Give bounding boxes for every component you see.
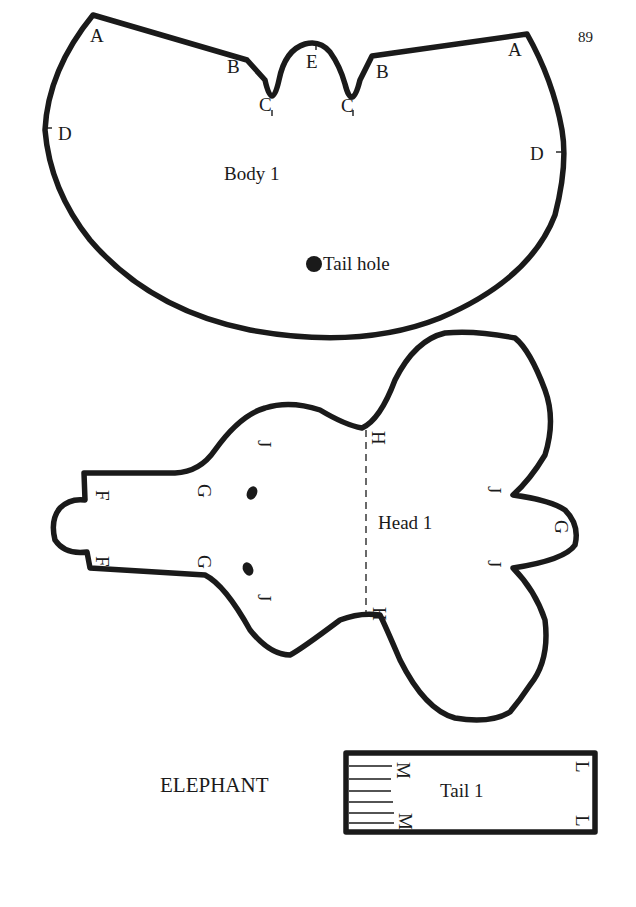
mark-b-right: B — [376, 61, 389, 82]
mark-f-top: F — [92, 490, 113, 501]
head-outline — [53, 332, 576, 720]
mark-c-left: C — [259, 94, 272, 115]
pattern-sheet: 89 A A B B C C D D E Body 1 Tail hole F … — [0, 0, 636, 907]
page-number: 89 — [578, 29, 593, 45]
mark-d-right: D — [530, 143, 544, 164]
mark-e: E — [306, 51, 318, 72]
mark-f-bottom: F — [92, 556, 113, 567]
mark-d-left: D — [58, 123, 72, 144]
pattern-caption: ELEPHANT — [160, 773, 269, 797]
head-pattern-piece: F F G G G H H J J J J Head 1 — [53, 332, 576, 720]
mark-g-top: G — [194, 484, 215, 498]
mark-l-top: L — [572, 761, 593, 773]
mark-g-bottom: G — [194, 555, 215, 569]
mark-h-bottom: H — [369, 607, 390, 621]
mark-a-left: A — [90, 25, 104, 46]
mark-g-right: G — [551, 520, 572, 534]
mark-j-bottom-right: J — [484, 560, 505, 567]
mark-j-top-left: J — [254, 440, 275, 447]
mark-b-left: B — [227, 56, 240, 77]
mark-m-bottom: M — [395, 813, 416, 830]
body-title: Body 1 — [224, 163, 279, 184]
tail-pattern-piece: M M L L Tail 1 — [346, 753, 595, 832]
body-outline — [45, 15, 564, 338]
mark-l-bottom: L — [572, 815, 593, 827]
mark-c-right: C — [341, 95, 354, 116]
eye-bottom — [241, 561, 256, 578]
mark-j-bottom-left: J — [254, 594, 275, 601]
mark-j-top-right: J — [484, 486, 505, 493]
mark-m-top: M — [393, 762, 414, 779]
tail-title: Tail 1 — [440, 780, 484, 801]
body-pattern-piece: A A B B C C D D E Body 1 Tail hole — [45, 15, 564, 338]
tail-hole-dot — [306, 256, 322, 272]
eye-top — [245, 485, 260, 502]
tail-hole-label: Tail hole — [323, 253, 390, 274]
head-title: Head 1 — [378, 512, 432, 533]
tail-fringe-lines — [349, 766, 394, 823]
mark-h-top: H — [368, 431, 389, 445]
mark-a-right: A — [508, 39, 522, 60]
